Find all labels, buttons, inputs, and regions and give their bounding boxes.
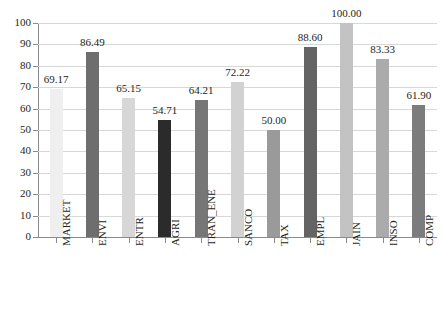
bar-value-label: 72.22 [214,67,262,78]
gridline [38,23,437,24]
bar-value-label: 50.00 [250,115,298,126]
x-axis-tick [129,238,130,243]
bar-value-label: 88.60 [286,32,334,43]
y-axis-tick-label: 100 [3,17,31,28]
bar-chart: 0102030405060708090100 69.17MARKET86.49E… [0,0,443,320]
x-axis-tick [92,238,93,243]
bar-value-label: 64.21 [177,85,225,96]
y-axis-tick [33,216,38,217]
y-axis-tick-label: 70 [3,81,31,92]
x-axis-tick [383,238,384,243]
y-axis-tick [33,173,38,174]
x-axis-category-label: COMP [424,215,435,246]
y-axis-tick [33,87,38,88]
y-axis-tick-labels: 0102030405060708090100 [0,0,31,320]
x-axis-category-label: JAIN [351,222,362,246]
y-axis-tick-label: 80 [3,60,31,71]
y-axis-tick-label: 90 [3,38,31,49]
x-axis-tick [419,238,420,243]
y-axis-tick-label: 40 [3,145,31,156]
x-axis-category-label: TAX [279,224,290,246]
x-axis-tick [56,238,57,243]
x-axis-category-label: EMPL [315,217,326,246]
bar-value-label: 86.49 [68,37,116,48]
bar-value-label: 100.00 [322,8,370,19]
x-axis-tick [165,238,166,243]
bar-value-label: 69.17 [32,74,80,85]
y-axis-tick-label: 10 [3,210,31,221]
bar-value-label: 83.33 [359,44,407,55]
bar [340,23,353,237]
bar [86,52,99,237]
y-axis-tick [33,23,38,24]
bar-value-label: 61.90 [395,90,443,101]
y-axis-tick [33,151,38,152]
plot-area [38,23,437,237]
y-axis-tick [33,109,38,110]
bar-value-label: 54.71 [141,105,189,116]
y-axis-tick [33,194,38,195]
bar [267,130,280,237]
bar-value-label: 65.15 [105,83,153,94]
y-axis-tick [33,130,38,131]
y-axis-tick-label: 30 [3,167,31,178]
x-axis-tick [238,238,239,243]
x-axis-category-label: ENVI [97,220,108,246]
x-axis-category-label: TRAN_ENE [206,189,217,246]
x-axis-tick [274,238,275,243]
y-axis-tick-label: 60 [3,103,31,114]
y-axis-tick-label: 50 [3,124,31,135]
bar [376,59,389,237]
x-axis-tick [346,238,347,243]
x-axis-category-label: AGRI [170,219,181,246]
x-axis-category-label: ENTR [134,217,145,246]
y-axis-tick [33,66,38,67]
x-axis-tick [201,238,202,243]
y-axis-tick [33,237,38,238]
y-axis-tick-label: 0 [3,231,31,242]
x-axis-category-label: INSO [388,220,399,246]
x-axis-category-label: SANCO [243,209,254,246]
x-axis-tick [310,238,311,243]
y-axis-tick-label: 20 [3,188,31,199]
x-axis-category-label: MARKET [61,200,72,246]
bar [304,47,317,237]
y-axis-tick [33,44,38,45]
